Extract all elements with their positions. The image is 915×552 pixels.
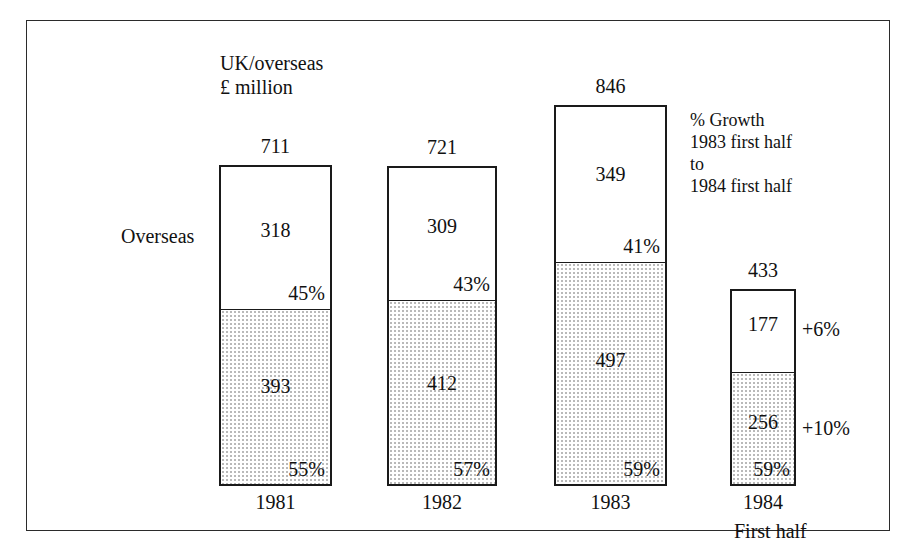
segment-value-overseas-1981: 318 [221, 219, 330, 242]
axis-label-1983: 1983 [554, 491, 667, 514]
axis-label-1982: 1982 [387, 491, 497, 514]
bar-total-1983: 846 [554, 75, 667, 98]
growth-label-uk-1984: +10% [802, 417, 850, 440]
segment-percent-overseas-1981: 45% [288, 282, 325, 305]
growth-legend-line2: 1983 first half [690, 132, 792, 152]
bar-total-1984: 433 [726, 259, 800, 282]
growth-legend-line1: % Growth [690, 110, 765, 130]
bar-segment-uk-1983[interactable]: 497 59% [556, 263, 665, 484]
bar-segment-uk-1984[interactable]: 256 59% [732, 373, 794, 484]
bar-segment-uk-1982[interactable]: 412 57% [389, 301, 495, 484]
growth-legend-line4: 1984 first half [690, 176, 792, 196]
segment-value-uk-1984: 256 [732, 411, 794, 434]
bar-segment-uk-1981[interactable]: 393 55% [221, 310, 330, 484]
segment-value-uk-1982: 412 [389, 372, 495, 395]
segment-value-uk-1983: 497 [556, 349, 665, 372]
chart-title-line1: UK/overseas [220, 52, 323, 74]
first-half-caption: First half [734, 519, 807, 543]
chart-title-line2: £ million [220, 76, 293, 98]
stacked-bar-1984[interactable]: 177 256 59% [730, 289, 796, 486]
stacked-bar-1983[interactable]: 349 41% 497 59% [554, 105, 667, 486]
segment-percent-overseas-1982: 43% [453, 273, 490, 296]
growth-label-overseas-1984: +6% [802, 318, 840, 341]
segment-value-overseas-1982: 309 [389, 215, 495, 238]
series-label-overseas: Overseas [121, 224, 194, 248]
bar-total-1981: 711 [219, 135, 332, 158]
segment-percent-uk-1982: 57% [453, 458, 490, 481]
stacked-bar-1982[interactable]: 309 43% 412 57% [387, 166, 497, 486]
bar-segment-overseas-1981[interactable]: 318 45% [221, 167, 330, 310]
chart-canvas: UK/overseas£ million Overseas % Growth19… [0, 0, 915, 552]
stacked-bar-1981[interactable]: 318 45% 393 55% [219, 165, 332, 486]
chart-title: UK/overseas£ million [220, 51, 323, 100]
bar-total-1982: 721 [387, 136, 497, 159]
bar-segment-overseas-1984[interactable]: 177 [732, 291, 794, 373]
segment-value-overseas-1984: 177 [732, 313, 794, 336]
bar-segment-overseas-1982[interactable]: 309 43% [389, 168, 495, 301]
growth-legend-line3: to [690, 154, 704, 174]
segment-value-overseas-1983: 349 [556, 163, 665, 186]
axis-label-1981: 1981 [219, 491, 332, 514]
growth-legend: % Growth1983 first halfto1984 first half [690, 110, 792, 198]
chart-frame: UK/overseas£ million Overseas % Growth19… [26, 20, 890, 531]
segment-percent-overseas-1983: 41% [623, 235, 660, 258]
segment-percent-uk-1984: 59% [753, 458, 790, 481]
segment-percent-uk-1983: 59% [623, 458, 660, 481]
segment-value-uk-1981: 393 [221, 375, 330, 398]
bar-segment-overseas-1983[interactable]: 349 41% [556, 107, 665, 263]
axis-label-1984: 1984 [726, 491, 800, 514]
segment-percent-uk-1981: 55% [288, 458, 325, 481]
